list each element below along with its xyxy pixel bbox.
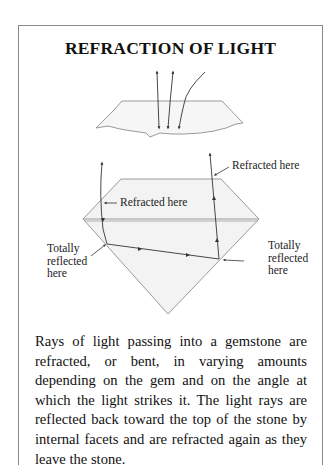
label-line: here [268,264,308,277]
label-line: reflected [268,252,308,265]
label-totally-reflected-left: Totally reflected here [47,242,87,280]
label-line: reflected [47,255,87,268]
label-refracted-left: Refracted here [120,196,187,209]
label-line: here [47,267,87,280]
label-line: Totally [268,239,308,252]
label-refracted-top: Refracted here [232,159,299,172]
label-totally-reflected-right: Totally reflected here [268,239,308,277]
label-line: Totally [47,242,87,255]
figure-caption: Rays of light passing into a gemstone ar… [35,332,307,469]
